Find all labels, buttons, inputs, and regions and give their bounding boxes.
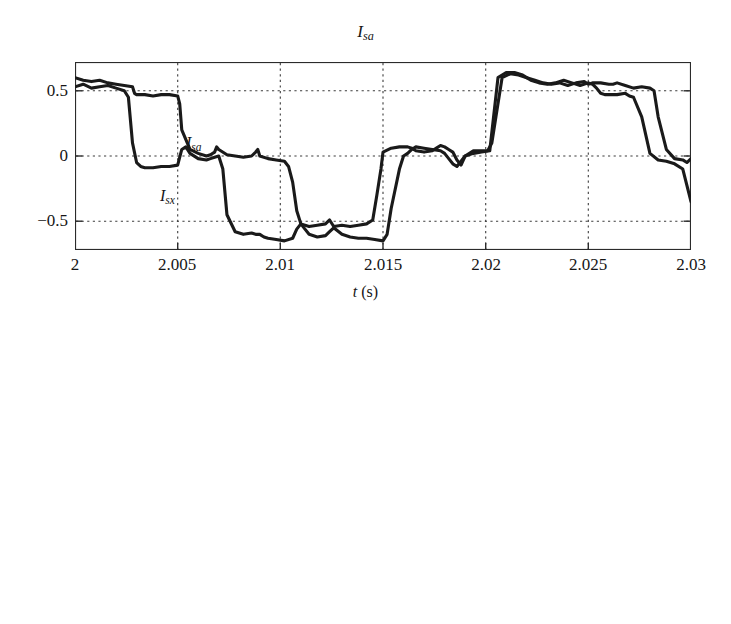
annotation-isa: Isa (186, 134, 202, 156)
top-xaxis-label-unit: (s) (361, 283, 378, 300)
top-xtick-3: 2.015 (348, 256, 418, 274)
annotation-isx-subscript: sx (165, 194, 175, 206)
panel-isa: Isa (0, 0, 731, 312)
annotation-isx: Isx (160, 187, 175, 209)
top-ytick-2: −0.5 (4, 212, 68, 230)
top-plot-svg (75, 62, 691, 250)
top-chart-title: Isa (0, 22, 731, 46)
top-xtick-5: 2.025 (553, 256, 623, 274)
top-xaxis-label-var: t (353, 283, 357, 300)
panel-uab: Uab (V) ×104 (0, 312, 731, 624)
top-chart-title-subscript: sa (363, 29, 374, 43)
top-xtick-0: 2 (40, 256, 110, 274)
top-xtick-2: 2.01 (245, 256, 315, 274)
top-ytick-1: 0 (4, 147, 68, 165)
top-ytick-0: 0.5 (4, 82, 68, 100)
top-xaxis-label: t (s) (0, 283, 731, 301)
figure-container: Isa (0, 0, 731, 624)
top-xtick-6: 2.03 (656, 256, 726, 274)
top-xtick-1: 2.005 (142, 256, 212, 274)
top-xtick-4: 2.02 (451, 256, 521, 274)
annotation-isa-subscript: sa (191, 141, 201, 153)
top-plot-area (75, 62, 691, 250)
